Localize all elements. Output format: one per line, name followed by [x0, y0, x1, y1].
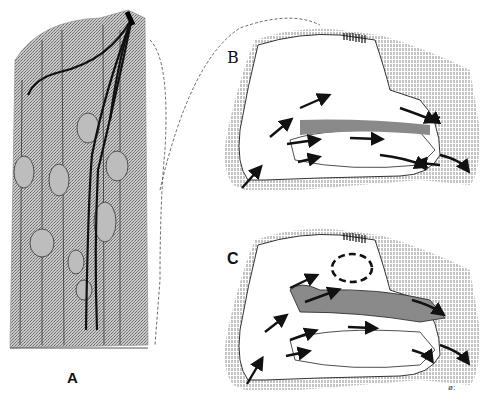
- panel-label-a: A: [67, 369, 78, 386]
- panel-label-c: C: [227, 250, 239, 268]
- panel-label-b: B: [227, 48, 239, 67]
- panel-a-epithelium: [10, 10, 148, 348]
- panel-c-nasal-airflow-sniff: [225, 229, 480, 390]
- connector-dashed: [150, 40, 166, 345]
- panel-b-nasal-airflow: [225, 29, 480, 190]
- artist-signature: ø:: [448, 383, 455, 392]
- illustration: [0, 0, 484, 407]
